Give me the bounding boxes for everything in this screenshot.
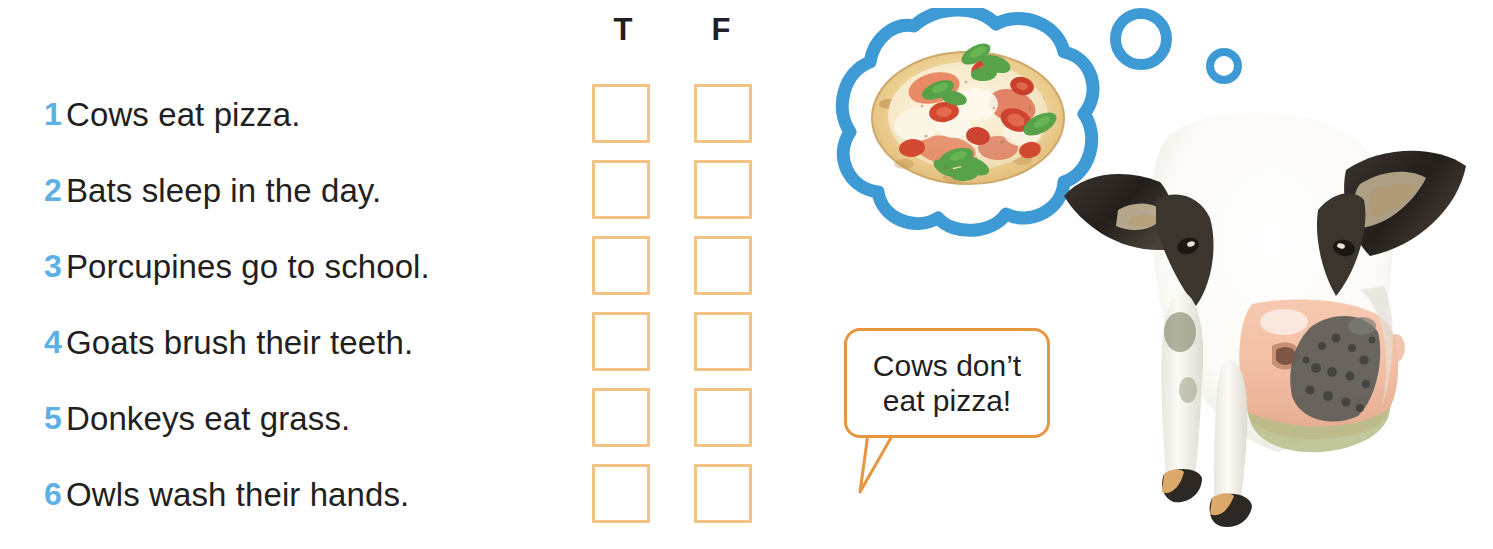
question-number: 2 [0,174,66,206]
question-list: 1 Cows eat pizza. 2 Bats sleep in the da… [0,0,580,549]
question-row-5: 5 Donkeys eat grass. [0,380,580,456]
checkbox-false-5[interactable] [694,388,752,447]
speech-bubble-tail [844,430,964,500]
question-number: 1 [0,98,66,130]
worksheet-page: 1 Cows eat pizza. 2 Bats sleep in the da… [0,0,1493,549]
column-header-false: F [690,12,752,48]
checkbox-false-1[interactable] [694,84,752,143]
checkbox-true-2[interactable] [592,160,650,219]
question-text: Porcupines go to school. [66,250,430,283]
checkbox-false-6[interactable] [694,464,752,523]
checkbox-true-1[interactable] [592,84,650,143]
checkbox-false-4[interactable] [694,312,752,371]
speech-bubble: Cows don’t eat pizza! [844,328,1050,438]
question-number: 4 [0,326,66,358]
checkbox-false-3[interactable] [694,236,752,295]
checkbox-false-2[interactable] [694,160,752,219]
checkbox-true-3[interactable] [592,236,650,295]
true-false-grid: T F [580,0,780,549]
question-row-2: 2 Bats sleep in the day. [0,152,580,228]
question-text: Cows eat pizza. [66,98,300,131]
question-number: 3 [0,250,66,282]
question-row-6: 6 Owls wash their hands. [0,456,580,532]
checkbox-true-4[interactable] [592,312,650,371]
question-row-4: 4 Goats brush their teeth. [0,304,580,380]
question-text: Donkeys eat grass. [66,402,350,435]
question-text: Bats sleep in the day. [66,174,381,207]
question-number: 5 [0,402,66,434]
question-text: Goats brush their teeth. [66,326,413,359]
speech-bubble-text: Cows don’t eat pizza! [873,348,1021,419]
column-header-true: T [592,12,654,48]
question-text: Owls wash their hands. [66,478,409,511]
cow-image [1060,60,1493,549]
question-number: 6 [0,478,66,510]
question-row-1: 1 Cows eat pizza. [0,76,580,152]
checkbox-true-5[interactable] [592,388,650,447]
checkbox-true-6[interactable] [592,464,650,523]
question-row-3: 3 Porcupines go to school. [0,228,580,304]
cow-leg-right [1214,360,1247,504]
